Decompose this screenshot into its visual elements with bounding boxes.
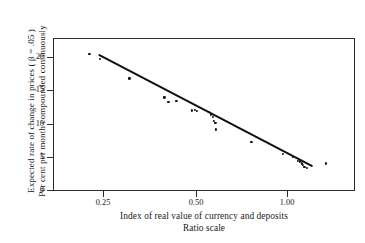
y-axis-title-line-2: Per cent per month compounded continuous… xyxy=(37,25,48,197)
chart-figure: Expected rate of change in prices ( β = … xyxy=(0,0,365,243)
x-tick-mark-1.00 xyxy=(287,191,288,197)
y-tick-label-15: 15 xyxy=(20,86,44,94)
x-axis-title: Index of real value of currency and depo… xyxy=(53,211,355,222)
y-tick-label-5: 5 xyxy=(20,153,44,161)
x-tick-label-0.50: 0.50 xyxy=(176,199,216,207)
regression-line xyxy=(54,39,354,190)
x-tick-label-0.25: 0.25 xyxy=(83,199,123,207)
y-tick-label-20: 20 xyxy=(20,53,44,61)
y-axis-title: Expected rate of change in prices ( β = … xyxy=(22,11,52,211)
x-tick-mark-0.50 xyxy=(196,191,197,197)
x-tick-label-1.00: 1.00 xyxy=(267,199,307,207)
x-axis-subtitle: Ratio scale xyxy=(53,223,355,234)
y-tick-label-0: 0 xyxy=(20,186,44,194)
plot-area xyxy=(53,38,355,191)
y-tick-label-10: 10 xyxy=(20,120,44,128)
x-tick-mark-0.25 xyxy=(103,191,104,197)
plot-inner xyxy=(54,39,354,190)
